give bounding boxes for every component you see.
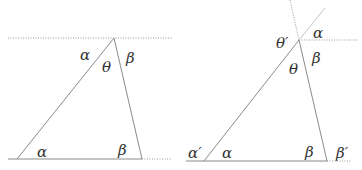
label-beta-bottom: β [117,141,127,159]
label-beta-top: β [311,49,321,67]
right-side-dotted-extension [290,0,299,40]
triangle-left-side [17,38,114,159]
label-alpha-bottom: α [37,143,47,161]
label-beta-bottom: β [304,143,314,161]
right-panel: θ′ α θ β α′ α β β′ [186,0,358,162]
label-alpha-top: α [313,24,323,42]
label-beta-prime: β′ [335,144,349,162]
label-alpha-bottom: α [222,144,232,162]
label-theta: θ [289,60,298,78]
left-panel: α θ β α β [8,38,172,161]
label-alpha-top: α [80,46,90,64]
triangle-left-side [204,40,299,161]
label-theta-prime: θ′ [276,34,289,52]
label-alpha-prime: α′ [188,144,202,162]
label-beta-top: β [125,49,135,67]
label-theta: θ [102,58,111,76]
triangle-angle-diagram: α θ β α β θ′ α θ β α′ α β β′ [0,0,362,170]
